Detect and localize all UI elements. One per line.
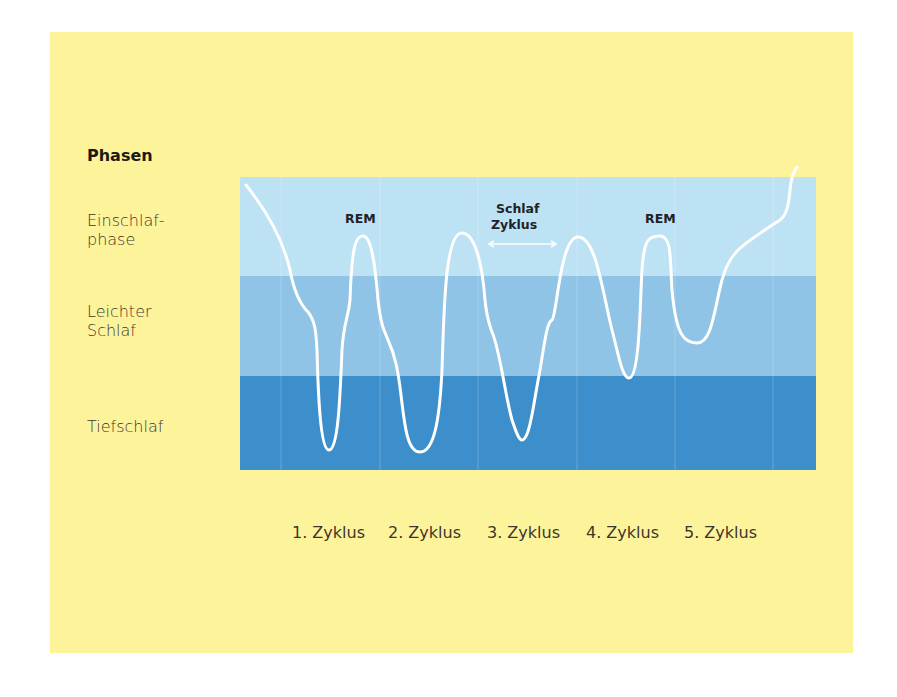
- cycle-label-2: 2. Zyklus: [388, 523, 461, 542]
- cycle-label-line1: Schlaf: [496, 201, 540, 216]
- band-deep-sleep: [240, 376, 816, 470]
- cycle-label-3: 3. Zyklus: [487, 523, 560, 542]
- cycle-label-4: 4. Zyklus: [586, 523, 659, 542]
- cycle-label-5: 5. Zyklus: [684, 523, 757, 542]
- rem-label-1: REM: [345, 211, 376, 226]
- cycle-label-line2: Zyklus: [491, 217, 537, 232]
- band-light-sleep: [240, 276, 816, 376]
- cycle-label-1: 1. Zyklus: [292, 523, 365, 542]
- sleep-cycle-chart: REM REM Schlaf Zyklus: [0, 0, 897, 697]
- rem-label-2: REM: [645, 211, 676, 226]
